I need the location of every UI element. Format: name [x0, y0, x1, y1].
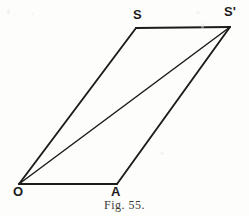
vertex-label-s-prime: S' [224, 5, 236, 18]
segment-S-S-prime [136, 27, 230, 28]
parallelogram-diagram [0, 0, 249, 216]
figure-caption: Fig. 55. [0, 198, 249, 213]
vertex-label-a: A [111, 185, 120, 198]
segment-O-S [19, 28, 136, 184]
segment-A-S-prime [117, 27, 230, 184]
vertex-label-s: S [133, 8, 142, 21]
vertex-label-origin: O [13, 185, 23, 198]
segment-diagonal-O-S-prime [19, 27, 230, 184]
figure-container: O A S S' Fig. 55. [0, 0, 249, 216]
